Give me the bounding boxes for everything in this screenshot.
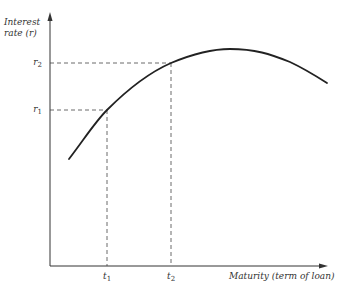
y-axis-arrow-icon — [48, 12, 53, 21]
y-axis-label: Interest rate (r) — [4, 17, 40, 39]
yield-curve-diagram: Interest rate (r) r2 r1 t1 t2 Maturity (… — [0, 0, 346, 295]
r2-tick-label: r2 — [22, 57, 42, 71]
t1-tick-label: t1 — [103, 271, 111, 285]
y-axis-label-line1: Interest — [4, 17, 40, 28]
x-axis-label: Maturity (term of loan) — [229, 271, 334, 282]
r1-subscript: 1 — [38, 108, 42, 116]
y-axis-label-line2: rate (r) — [4, 28, 40, 39]
t2-subscript: 2 — [171, 275, 175, 283]
t2-tick-label: t2 — [167, 271, 175, 285]
x-axis-arrow-icon — [319, 264, 328, 269]
yield-curve-line — [69, 49, 327, 159]
r1-tick-label: r1 — [22, 104, 42, 118]
t1-subscript: 1 — [107, 275, 111, 283]
diagram-canvas — [0, 0, 346, 295]
r2-subscript: 2 — [38, 61, 42, 69]
